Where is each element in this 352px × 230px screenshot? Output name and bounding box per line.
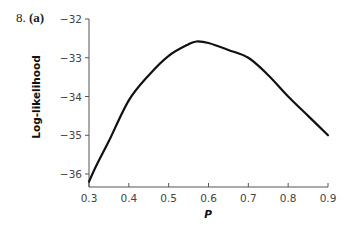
x-tick-label: 0.4 <box>120 192 137 204</box>
x-tick-label: 0.5 <box>160 192 177 204</box>
x-tick-label: 0.7 <box>240 192 257 204</box>
x-tick-label: 0.6 <box>200 192 217 204</box>
x-tick-label: 0.8 <box>280 192 297 204</box>
log-likelihood-chart: −32−33−34−35−36 0.30.40.50.60.70.80.9 Lo… <box>0 0 352 230</box>
y-tick-label: −36 <box>60 168 82 180</box>
log-likelihood-curve <box>89 41 328 181</box>
x-axis-title: P <box>204 208 212 220</box>
x-axis: 0.30.40.50.60.70.80.9 <box>81 183 337 204</box>
y-tick-label: −34 <box>60 91 82 103</box>
y-tick-label: −35 <box>60 129 82 141</box>
y-tick-label: −32 <box>60 13 82 25</box>
y-axis-title: Log-likelihood <box>30 55 42 138</box>
x-tick-label: 0.3 <box>81 192 98 204</box>
x-tick-label: 0.9 <box>320 192 337 204</box>
y-axis: −32−33−34−35−36 <box>60 13 89 187</box>
y-tick-label: −33 <box>60 52 82 64</box>
